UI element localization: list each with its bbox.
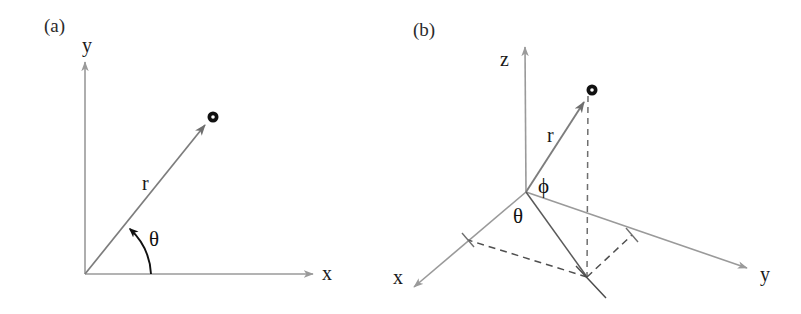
panel-b-y-axis-label: y (760, 263, 770, 286)
figure-container: (a) y x r θ (b) z x (0, 0, 801, 314)
panel-b-z-axis-label: z (500, 48, 509, 70)
panel-b-r-vector (526, 102, 584, 192)
panel-a-point-marker-center (211, 115, 215, 119)
panel-a-r-label: r (142, 172, 149, 194)
panel-a-x-axis-label: x (322, 262, 332, 284)
panel-b-x-axis-label: x (393, 266, 403, 288)
panel-a-theta-label: θ (149, 227, 159, 251)
panel-a-group: (a) y x r θ (44, 15, 332, 284)
panel-b-point-marker-center (590, 88, 594, 92)
coordinate-systems-diagram: (a) y x r θ (b) z x (0, 0, 801, 314)
panel-a-label: (a) (44, 15, 65, 37)
panel-b-projection-tick (576, 266, 606, 298)
panel-a-y-axis-label: y (82, 34, 92, 57)
panel-b-dashed-to-x-axis (468, 240, 587, 277)
panel-b-theta-label: θ (513, 204, 523, 228)
panel-b-z-axis (525, 47, 526, 192)
panel-b-dashed-to-y-axis (587, 235, 632, 277)
panel-a-r-vector (85, 125, 205, 274)
panel-a-theta-arc (130, 229, 151, 274)
panel-b-x-axis (414, 192, 526, 287)
panel-b-vertical-drop-dashed (587, 96, 588, 277)
panel-b-phi-label: ϕ (538, 174, 549, 198)
panel-b-projection-line (526, 192, 587, 277)
panel-b-group: (b) z x y r (393, 19, 770, 298)
panel-b-y-axis (526, 192, 747, 268)
panel-b-r-label: r (547, 124, 554, 146)
panel-b-label: (b) (413, 19, 435, 41)
